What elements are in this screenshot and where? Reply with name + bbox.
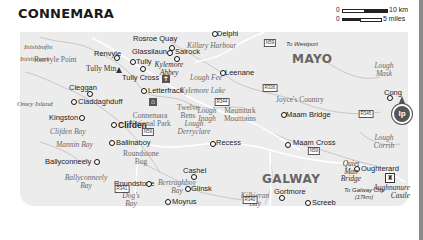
- town-rosroe-quay: Rosroe Quay: [133, 35, 177, 43]
- sight-quiet-man-bridge: Quiet Man Bridge: [336, 160, 366, 183]
- water-bertraghboy-bay: Bertraghboy Bay: [156, 179, 198, 194]
- castle-icon: ♜: [385, 173, 395, 183]
- terrain-twelve-bens: Twelve Bens: [176, 104, 200, 120]
- road-shield-n59-clifden: N59: [142, 128, 154, 136]
- town-marker: [111, 122, 117, 128]
- water-mannin-bay: Mannin Bay: [56, 141, 93, 149]
- town-marker: [165, 199, 171, 205]
- town-marker: [141, 88, 147, 94]
- town-screeb: Screeb: [312, 199, 336, 207]
- town-oughterard: Oughterard: [361, 165, 399, 173]
- water-clifden-bay: Clifden Bay: [50, 128, 86, 136]
- town-tully: Tully: [136, 58, 152, 66]
- town-marker: [71, 99, 77, 105]
- mountain-icon: [116, 67, 122, 73]
- sight-kylemore-abbey: Kylemore Abbey: [154, 61, 184, 76]
- town-marker: [212, 31, 218, 37]
- town-marker: [279, 195, 285, 201]
- town-kingston: Kingston: [49, 114, 78, 122]
- town-marker: [146, 181, 152, 187]
- scale-km-zero: 0: [336, 6, 340, 13]
- road-shield-r336: R336: [263, 84, 278, 92]
- map-title: CONNEMARA: [18, 6, 114, 21]
- water-lough-mask: Lough Mask: [372, 62, 396, 77]
- town-marker: [114, 55, 120, 61]
- scale-mi-bar: [360, 18, 382, 22]
- direction-to-galway-city: To Galway City (17km): [342, 187, 386, 200]
- region-galway: GALWAY: [262, 172, 320, 186]
- town-marker: [130, 59, 136, 65]
- town-marker: [305, 200, 311, 206]
- terrain-joyces-country: Joyce's Country: [276, 96, 324, 104]
- scale-bar: 0 10 km 0 5 miles: [336, 6, 416, 26]
- island-omey: Omey Island: [17, 101, 53, 108]
- town-marker: [94, 159, 100, 165]
- town-moyrus: Moyrus: [172, 198, 197, 206]
- water-lough-corrib: Lough Corrib: [372, 134, 396, 149]
- water-kylemore-lake: Kylemore Lake: [180, 87, 225, 95]
- water-killary-harbour: Killary Harbour: [187, 42, 236, 50]
- town-marker: [281, 112, 287, 118]
- town-ballinaboy: Ballinaboy: [116, 139, 151, 147]
- scale-mi-label: 5 miles: [383, 15, 405, 22]
- island-inishbofin: Inishbofin: [24, 44, 52, 51]
- water-ballyconneely-bay: Ballyconneely Bay: [60, 174, 112, 189]
- direction-to-westport: To Westport: [286, 41, 318, 48]
- map-area[interactable]: MAYO GALWAY Inishbofin Inishshark Omey I…: [20, 32, 408, 206]
- town-recess: Recess: [216, 139, 241, 147]
- abbey-icon: ✝: [162, 75, 170, 83]
- region-mayo: MAYO: [292, 52, 333, 66]
- water-dogs-bay: Dog's Bay: [120, 192, 142, 207]
- terrain-connemara-np: Connemara National Park: [126, 112, 174, 128]
- road-shield-r340: R340: [243, 196, 258, 204]
- water-lough-derryclare: Lough Derryclare: [177, 120, 211, 135]
- town-glassilaun: Glassilaun: [132, 48, 167, 56]
- scale-mi-zero: 0: [336, 15, 340, 22]
- town-maam-cross: Maam Cross: [293, 139, 336, 147]
- park-icon: ⌂: [149, 98, 157, 106]
- town-claddaghduff: Claddaghduff: [78, 98, 122, 106]
- terrain-renvyle-point: Renvyle Point: [34, 56, 77, 64]
- town-marker: [79, 115, 85, 121]
- town-marker: [109, 140, 115, 146]
- road-shield-n59: N59: [264, 39, 276, 47]
- town-delphi: Delphi: [217, 30, 238, 38]
- lonely-planet-logo: lp: [392, 104, 412, 124]
- scale-km-label: 10 km: [389, 6, 408, 13]
- road-shield-r345: R345: [359, 110, 374, 118]
- town-marker: [387, 95, 393, 101]
- town-gortmore: Gortmore: [274, 188, 306, 196]
- town-ballyconneely: Ballyconneely: [45, 158, 91, 166]
- town-cleggan: Cleggan: [69, 84, 97, 92]
- town-marker: [140, 66, 146, 72]
- town-marker: [285, 142, 291, 148]
- town-marker: [210, 141, 216, 147]
- road-shield-n59-maam: N59: [308, 147, 320, 155]
- scale-mi-fill: [342, 18, 360, 21]
- road-shield-r341: R341: [115, 185, 130, 193]
- terrain-tully-mtn: Tully Mtn: [86, 65, 116, 73]
- town-marker: [167, 50, 173, 56]
- terrain-roundstone-bog: Roundstone Bog: [118, 150, 164, 166]
- scale-km-fill: [364, 9, 387, 12]
- town-leenane: Leenane: [225, 69, 254, 77]
- terrain-maumturk-mountains: Maumturk Mountains: [221, 107, 259, 123]
- town-maam-bridge: Maam Bridge: [286, 111, 331, 119]
- page-edge: [419, 0, 423, 240]
- water-lough-fee: Lough Fee: [190, 74, 222, 82]
- town-letterfrack: Letterfrack: [148, 87, 183, 95]
- road-shield-r344: R344: [215, 98, 230, 106]
